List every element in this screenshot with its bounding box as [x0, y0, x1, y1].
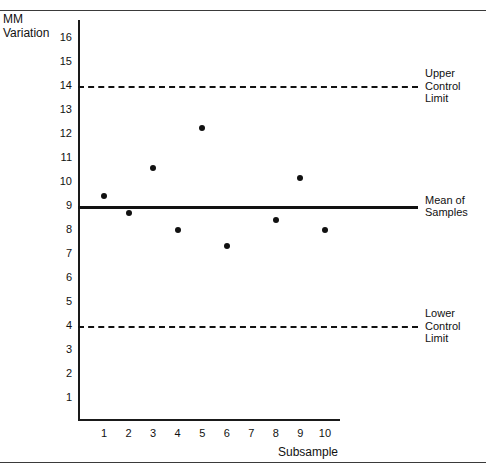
x-tick-label-4: 4: [166, 427, 190, 439]
data-point: [101, 193, 107, 199]
control-chart: MM Variation 12345678910111213141516 123…: [0, 0, 486, 472]
x-tick-label-3: 3: [141, 427, 165, 439]
y-tick-label-12: 12: [50, 128, 72, 139]
y-tick-label-6: 6: [50, 272, 72, 283]
x-tick-label-5: 5: [190, 427, 214, 439]
y-tick-label-14: 14: [50, 80, 72, 91]
mean-of-samples-label: Mean of Samples: [425, 194, 468, 219]
y-tick-label-1: 1: [50, 392, 72, 403]
data-point: [126, 210, 132, 216]
y-tick-label-13: 13: [50, 104, 72, 115]
lower-control-limit-label: Lower Control Limit: [425, 307, 460, 345]
data-point: [322, 227, 328, 233]
x-axis-title: Subsample: [278, 446, 338, 459]
x-tick-label-2: 2: [117, 427, 141, 439]
y-axis-title: MM Variation: [3, 12, 49, 40]
y-tick-label-2: 2: [50, 368, 72, 379]
mean-of-samples-line: [78, 206, 418, 209]
y-tick-label-4: 4: [50, 320, 72, 331]
y-tick-label-8: 8: [50, 224, 72, 235]
data-point: [273, 217, 279, 223]
x-tick-label-8: 8: [264, 427, 288, 439]
y-axis-line: [78, 20, 80, 421]
y-tick-label-16: 16: [50, 32, 72, 43]
y-axis-title-line-1: MM: [3, 12, 49, 26]
y-tick-label-11: 11: [50, 152, 72, 163]
y-tick-label-9: 9: [50, 200, 72, 211]
y-tick-label-15: 15: [50, 56, 72, 67]
data-point: [224, 243, 230, 249]
y-tick-label-7: 7: [50, 248, 72, 259]
upper-control-limit-label: Upper Control Limit: [425, 67, 460, 105]
y-tick-label-3: 3: [50, 344, 72, 355]
upper-control-limit-line: [78, 86, 418, 88]
data-point: [297, 175, 303, 181]
y-axis-title-line-2: Variation: [3, 26, 49, 40]
data-point: [150, 165, 156, 171]
x-tick-label-6: 6: [215, 427, 239, 439]
x-tick-label-9: 9: [288, 427, 312, 439]
x-tick-label-7: 7: [239, 427, 263, 439]
data-point: [175, 227, 181, 233]
x-tick-label-1: 1: [92, 427, 116, 439]
y-tick-label-5: 5: [50, 296, 72, 307]
y-tick-label-10: 10: [50, 176, 72, 187]
data-point: [199, 125, 205, 131]
lower-control-limit-line: [78, 326, 418, 328]
x-axis-line: [78, 419, 340, 421]
x-tick-label-10: 10: [313, 427, 337, 439]
